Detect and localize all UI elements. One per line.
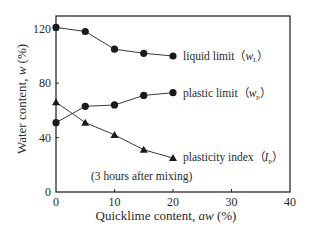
data-point-circle [140,92,147,99]
x-tick-label: 30 [226,195,238,209]
data-point-circle [111,101,118,108]
data-point-circle [169,52,176,59]
data-point-triangle [111,131,119,138]
data-point-circle [82,103,89,110]
series-label-plasticity-index: plasticity index（Ip） [183,151,283,165]
x-axis-label: Quicklime content, aw (%) [96,208,237,223]
x-tick-label: 10 [109,195,121,209]
series-liquid-limit [52,24,176,60]
data-point-circle [169,89,176,96]
x-tick-label: 40 [284,195,296,209]
y-axis-label: Water content, w (%) [14,44,29,154]
water-content-chart: 01020304004080120 liquid limit（wL） plast… [0,0,310,236]
series-label-liquid-limit: liquid limit（wL） [183,50,268,64]
series-layer [52,24,177,161]
x-tick-label: 20 [167,195,179,209]
y-tick-label: 80 [39,76,51,90]
series-label-plastic-limit: plastic limit（wp） [183,87,271,101]
y-tick-label: 40 [39,131,51,145]
data-point-circle [52,119,59,126]
series-line [56,102,173,158]
y-tick-label: 0 [45,185,51,199]
data-point-circle [52,24,59,31]
data-point-triangle [81,119,89,126]
data-point-circle [82,28,89,35]
series-plastic-limit [52,89,176,126]
x-tick-label: 0 [53,195,59,209]
annotation-note: (3 hours after mixing) [91,170,192,183]
y-tick-label: 120 [33,22,51,36]
data-point-circle [111,46,118,53]
data-point-circle [140,50,147,57]
plot-frame [56,16,290,192]
data-point-triangle [140,146,148,153]
data-point-triangle [52,98,60,105]
